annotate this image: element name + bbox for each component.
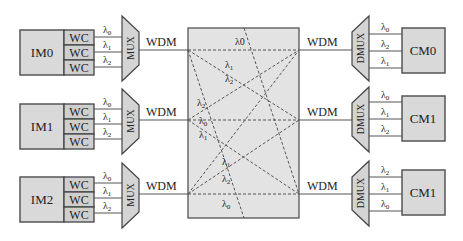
switch-diagram: λ0 λ1 λ2 λ2 λ0 λ1 λ1 λ2 λ0 IM0 WC WC WC … xyxy=(0,0,463,241)
svg-text:λ1: λ1 xyxy=(103,39,112,52)
svg-text:λ2: λ2 xyxy=(103,126,112,139)
svg-text:WC: WC xyxy=(69,135,88,149)
output-row-0: WDM DMUX λ0 λ2 λ1 CM0 xyxy=(299,16,445,81)
svg-text:λ2: λ2 xyxy=(103,200,112,213)
svg-text:WDM: WDM xyxy=(146,35,177,49)
input-row-2: IM2 WC WC WC λ0 λ1 λ2 MUX WDM xyxy=(20,163,188,228)
svg-text:DMUX: DMUX xyxy=(355,32,366,63)
svg-text:WC: WC xyxy=(69,105,88,119)
svg-text:WC: WC xyxy=(69,61,88,75)
svg-text:IM2: IM2 xyxy=(31,192,53,207)
svg-text:WC: WC xyxy=(69,31,88,45)
input-row-1: IM1 WC WC WC λ0 λ1 λ2 MUX WDM xyxy=(20,89,188,154)
svg-text:CM1: CM1 xyxy=(410,185,437,200)
svg-text:MUX: MUX xyxy=(125,36,136,60)
svg-text:WDM: WDM xyxy=(307,35,338,49)
svg-text:MUX: MUX xyxy=(125,109,136,133)
svg-text:WDM: WDM xyxy=(307,105,338,119)
svg-text:λ1: λ1 xyxy=(381,106,390,119)
svg-text:λ0: λ0 xyxy=(103,96,112,109)
svg-text:λ0: λ0 xyxy=(381,198,390,211)
svg-text:λ0: λ0 xyxy=(381,89,390,102)
svg-text:λ2: λ2 xyxy=(381,123,390,136)
svg-text:λ0: λ0 xyxy=(235,36,245,47)
svg-text:DMUX: DMUX xyxy=(355,177,366,208)
svg-text:λ0: λ0 xyxy=(103,24,112,37)
im0-label: IM0 xyxy=(31,45,53,60)
svg-text:λ1: λ1 xyxy=(103,111,112,124)
svg-text:WC: WC xyxy=(69,120,88,134)
svg-text:λ0: λ0 xyxy=(103,170,112,183)
svg-text:WDM: WDM xyxy=(146,105,177,119)
svg-text:IM1: IM1 xyxy=(31,119,53,134)
svg-text:λ2: λ2 xyxy=(381,38,390,51)
svg-text:WC: WC xyxy=(69,193,88,207)
output-row-2: WDM DMUX λ2 λ1 λ0 CM1 xyxy=(299,161,445,226)
output-row-1: WDM DMUX λ0 λ1 λ2 CM1 xyxy=(299,87,445,152)
svg-text:λ2: λ2 xyxy=(103,54,112,67)
svg-text:WDM: WDM xyxy=(146,179,177,193)
svg-text:λ0: λ0 xyxy=(381,21,390,34)
svg-text:λ2: λ2 xyxy=(381,164,390,177)
svg-text:WC: WC xyxy=(69,208,88,222)
svg-text:MUX: MUX xyxy=(125,183,136,207)
svg-text:λ1: λ1 xyxy=(103,185,112,198)
svg-text:λ1: λ1 xyxy=(381,55,390,68)
svg-text:WC: WC xyxy=(69,46,88,60)
input-row-0: IM0 WC WC WC λ0 λ1 λ2 MUX WDM xyxy=(20,16,188,81)
svg-text:WDM: WDM xyxy=(307,179,338,193)
svg-text:CM0: CM0 xyxy=(410,43,437,58)
svg-text:WC: WC xyxy=(69,178,88,192)
svg-text:DMUX: DMUX xyxy=(355,103,366,134)
svg-text:λ1: λ1 xyxy=(381,181,390,194)
svg-text:CM1: CM1 xyxy=(410,111,437,126)
